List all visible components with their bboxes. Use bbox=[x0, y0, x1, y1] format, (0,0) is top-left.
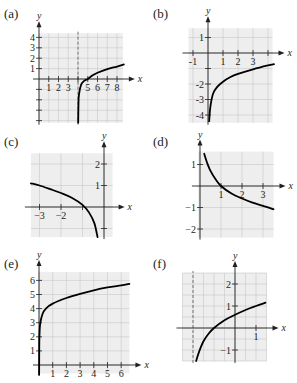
graph-panel-e: (e)xy123456123456 bbox=[4, 249, 149, 379]
panel-label: (a) bbox=[4, 6, 18, 21]
x-tick-label: 1 bbox=[46, 82, 51, 93]
y-tick-label: 2 bbox=[30, 53, 35, 64]
y-tick-label: 3 bbox=[30, 317, 35, 328]
x-axis-arrow-icon bbox=[280, 184, 286, 189]
y-axis-label: y bbox=[36, 10, 42, 21]
y-tick-label: -4 bbox=[196, 110, 204, 121]
x-axis-label: x bbox=[143, 359, 149, 370]
x-tick-label: 3 bbox=[78, 368, 83, 379]
y-tick-label: 1 bbox=[30, 63, 35, 74]
y-tick-label: -3 bbox=[196, 94, 204, 105]
y-axis-arrow-icon bbox=[37, 260, 42, 266]
x-tick-label: 1 bbox=[221, 56, 226, 67]
x-axis-arrow-icon bbox=[279, 51, 285, 56]
graph-panel-d: (d)xy123−2−11 bbox=[153, 129, 294, 240]
y-axis-label: y bbox=[232, 250, 238, 261]
x-axis-arrow-icon bbox=[129, 77, 135, 82]
y-tick-label: 4 bbox=[30, 32, 35, 43]
graph-panel-f: (f)xy1−112 bbox=[153, 250, 287, 363]
x-tick-label: 3 bbox=[66, 82, 71, 93]
x-tick-label: 2 bbox=[56, 82, 61, 93]
x-tick-label: 8 bbox=[115, 82, 120, 93]
x-tick-label: 6 bbox=[95, 82, 100, 93]
y-axis-label: y bbox=[101, 130, 107, 141]
x-tick-label: 5 bbox=[105, 368, 110, 379]
y-tick-label: 1 bbox=[95, 180, 100, 191]
y-axis-arrow-icon bbox=[233, 261, 238, 267]
y-tick-label: 1 bbox=[199, 32, 204, 43]
x-axis-label: x bbox=[287, 47, 293, 58]
x-tick-label: 3 bbox=[251, 56, 256, 67]
y-tick-label: 6 bbox=[30, 275, 35, 286]
x-axis-label: x bbox=[127, 201, 133, 212]
x-tick-label: 2 bbox=[64, 368, 69, 379]
y-axis-label: y bbox=[36, 249, 42, 260]
y-axis-arrow-icon bbox=[102, 141, 107, 147]
y-tick-label: 5 bbox=[30, 289, 35, 300]
x-tick-label: 1 bbox=[50, 368, 55, 379]
y-tick-label: 4 bbox=[30, 303, 35, 314]
panel-label: (e) bbox=[4, 256, 18, 271]
panel-label: (c) bbox=[4, 134, 18, 149]
x-tick-label: 3 bbox=[261, 189, 266, 200]
y-tick-label: −2 bbox=[185, 224, 196, 235]
x-axis-label: x bbox=[281, 322, 287, 333]
y-tick-label: −1 bbox=[185, 202, 196, 213]
x-axis-arrow-icon bbox=[119, 205, 125, 210]
y-tick-label: 2 bbox=[30, 331, 35, 342]
panel-label: (b) bbox=[153, 6, 168, 21]
x-tick-label: −2 bbox=[56, 210, 67, 221]
y-axis-arrow-icon bbox=[37, 21, 42, 27]
y-tick-label: −1 bbox=[220, 345, 231, 356]
x-tick-label: 5 bbox=[85, 82, 90, 93]
y-axis-arrow-icon bbox=[198, 140, 203, 146]
x-tick-label: -1 bbox=[189, 56, 197, 67]
graph-panel-b: (b)xy-1123-4-3-21 bbox=[153, 5, 293, 125]
panel-label: (f) bbox=[153, 256, 166, 271]
panel-label: (d) bbox=[153, 134, 168, 149]
y-axis-arrow-icon bbox=[206, 16, 211, 22]
x-axis-label: x bbox=[137, 73, 143, 84]
x-axis-label: x bbox=[288, 180, 294, 191]
x-tick-label: 1 bbox=[254, 331, 259, 342]
x-axis-arrow-icon bbox=[135, 363, 141, 368]
x-tick-label: 6 bbox=[119, 368, 124, 379]
y-axis-label: y bbox=[205, 5, 211, 16]
graph-figure: (a)xy12356781234(b)xy-1123-4-3-21(c)xy−3… bbox=[0, 0, 297, 383]
x-tick-label: 2 bbox=[236, 56, 241, 67]
y-tick-label: -2 bbox=[196, 79, 204, 90]
y-axis-label: y bbox=[197, 129, 203, 140]
y-tick-label: 1 bbox=[191, 159, 196, 170]
x-tick-label: 1 bbox=[219, 189, 224, 200]
y-tick-label: 2 bbox=[226, 279, 231, 290]
y-tick-label: 1 bbox=[30, 345, 35, 356]
y-tick-label: 2 bbox=[95, 159, 100, 170]
x-tick-label: 7 bbox=[105, 82, 110, 93]
grid-background bbox=[31, 153, 113, 237]
grid-background bbox=[39, 33, 123, 122]
x-tick-label: −3 bbox=[34, 210, 45, 221]
y-tick-label: 1 bbox=[226, 301, 231, 312]
x-axis-arrow-icon bbox=[273, 326, 279, 331]
x-tick-label: 4 bbox=[91, 368, 96, 379]
graph-panel-a: (a)xy12356781234 bbox=[4, 6, 143, 125]
y-tick-label: 3 bbox=[30, 42, 35, 53]
graph-panel-c: (c)xy−3−212 bbox=[4, 130, 133, 239]
